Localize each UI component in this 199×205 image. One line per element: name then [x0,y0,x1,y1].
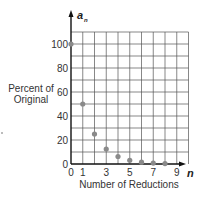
chart: 020406080100013579 a n n Percent of Orig… [0,0,199,205]
axes [69,10,187,167]
stray-mark [1,132,3,134]
data-point [151,160,156,165]
data-point [115,154,120,159]
y-axis-subscript: n [84,17,88,23]
y-axis-label-line-2: Original [14,94,48,105]
x-tick-label: 1 [80,167,86,178]
x-axis-arrow [179,162,186,167]
x-axis-label: Number of Reductions [79,179,179,190]
x-tick-label: 0 [68,167,74,178]
data-point [139,160,144,165]
y-tick-label: 20 [57,135,69,146]
x-tick-label: 3 [103,167,109,178]
y-tick-label: 80 [57,63,69,74]
y-tick-label: 60 [57,87,69,98]
y-tick-label: 100 [51,39,68,50]
x-tick-label: 7 [150,167,156,178]
data-point [104,146,109,151]
data-point [162,161,167,166]
y-axis-name: a [77,9,83,21]
x-tick-label: 5 [127,167,133,178]
data-point [80,101,85,106]
y-axis-label-line-1: Percent of [8,83,54,94]
grid [71,32,189,164]
x-axis-name: n [187,167,194,179]
y-axis-arrow [69,10,74,17]
data-point [68,41,73,46]
y-tick-label: 40 [57,111,69,122]
data-point [127,158,132,163]
x-tick-label: 9 [174,167,180,178]
data-point [92,131,97,136]
